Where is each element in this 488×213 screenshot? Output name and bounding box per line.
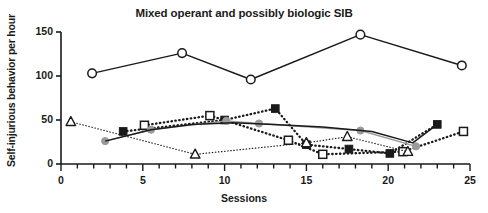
open-triangle-marker (66, 117, 76, 126)
open-square-marker (319, 150, 327, 158)
x-tick-label: 5 (131, 174, 155, 186)
x-tick-label: 15 (294, 174, 318, 186)
open-square-marker (459, 127, 467, 135)
series-dark-trend-curve (105, 123, 437, 143)
y-tick-label: 100 (19, 69, 53, 81)
series-gray-circle-series (102, 117, 420, 150)
y-tick-label: 0 (19, 157, 53, 169)
open-triangle-marker (343, 132, 353, 141)
x-minor-ticks (61, 164, 470, 171)
filled-square-marker (272, 105, 280, 113)
filled-square-marker (119, 128, 127, 136)
open-triangle-marker (190, 149, 200, 158)
x-tick-label: 10 (213, 174, 237, 186)
open-circle-marker (356, 30, 365, 39)
filled-circle-marker (412, 143, 419, 150)
x-tick-label: 25 (458, 174, 482, 186)
series-line (105, 123, 437, 143)
filled-square-marker (345, 145, 353, 153)
x-tick-label: 20 (376, 174, 400, 186)
open-circle-marker (178, 49, 187, 58)
chart-container: Mixed operant and possibly biologic SIB … (0, 0, 488, 213)
series-filled-square-series (119, 105, 441, 157)
open-square-marker (284, 136, 292, 144)
open-circle-marker (458, 61, 467, 70)
series-line (92, 35, 462, 80)
open-circle-marker (246, 75, 255, 84)
series-open-circle-series (88, 30, 466, 83)
open-circle-marker (88, 69, 97, 78)
x-tick-label: 0 (49, 174, 73, 186)
y-tick-label: 50 (19, 113, 53, 125)
filled-square-marker (386, 150, 394, 158)
open-square-marker (206, 112, 214, 120)
plot-area (0, 0, 488, 213)
y-tick-label: 150 (19, 25, 53, 37)
